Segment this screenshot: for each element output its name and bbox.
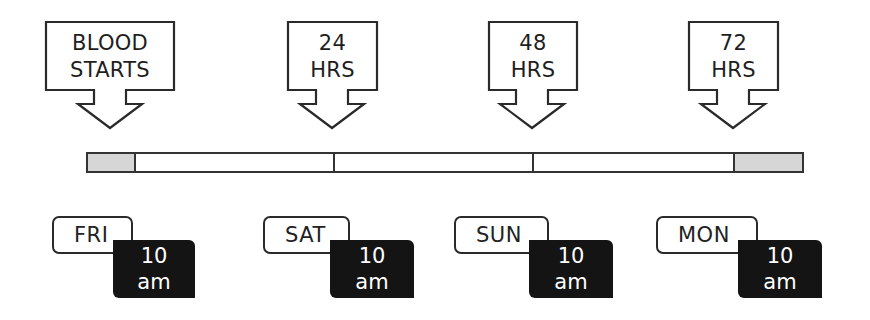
- time-unit: am: [330, 269, 414, 295]
- time-badge: 10 am: [113, 240, 195, 298]
- bar-segment-day-2: [335, 154, 534, 171]
- callout-72-hrs: 72 HRS: [0, 0, 820, 140]
- bar-segment-day-1: [136, 154, 335, 171]
- time-number: 10: [113, 243, 195, 269]
- time-number: 10: [529, 243, 613, 269]
- time-number: 10: [738, 243, 822, 269]
- time-badge: 10 am: [529, 240, 613, 298]
- time-number: 10: [330, 243, 414, 269]
- time-badge: 10 am: [330, 240, 414, 298]
- time-badge: 10 am: [738, 240, 822, 298]
- time-unit: am: [738, 269, 822, 295]
- callout-line1: 72: [689, 30, 778, 57]
- time-unit: am: [529, 269, 613, 295]
- bar-segment-start-shaded: [88, 154, 136, 171]
- bar-segment-day-3: [534, 154, 735, 171]
- bar-segment-end-shaded: [735, 154, 802, 171]
- timeline-bar: [86, 152, 804, 173]
- time-unit: am: [113, 269, 195, 295]
- callout-line2: HRS: [689, 57, 778, 84]
